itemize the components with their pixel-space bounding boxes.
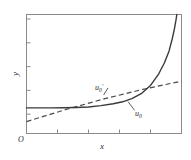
series-u0-prime-line — [27, 81, 182, 122]
leader-u0 — [128, 102, 135, 111]
label-u0-prime: u0′ — [95, 82, 104, 93]
x-axis-ticks — [58, 130, 151, 134]
y-axis-ticks — [27, 19, 31, 114]
leader-u0-prime — [104, 88, 108, 95]
y-axis-label: y — [10, 72, 20, 77]
label-u0: u0 — [135, 109, 142, 119]
line-chart: u0′ u0 y x O — [0, 0, 191, 160]
figure-container: u0′ u0 y x O — [0, 0, 191, 160]
series-u0-curve — [27, 15, 177, 108]
x-axis-label: x — [99, 141, 104, 151]
origin-label: O — [18, 135, 24, 144]
